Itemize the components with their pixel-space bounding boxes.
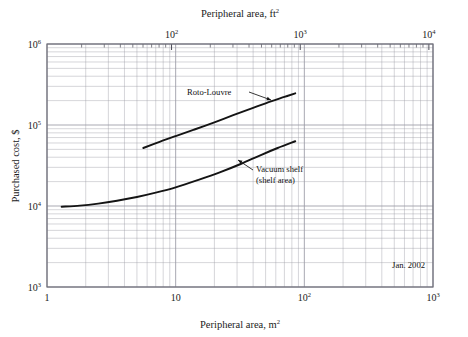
x-tick-0: 1 [45, 292, 50, 303]
date-stamp: Jan. 2002 [392, 260, 425, 270]
top-axis-title-text: Peripheral area, ft [201, 8, 276, 19]
y-axis-title: Purchased cost, $ [10, 129, 21, 202]
top-axis-title: Peripheral area, ft2 [201, 7, 279, 19]
vacuum-shelf-label-line2: (shelf area) [256, 175, 295, 185]
x-tick-1: 10 [171, 292, 181, 303]
x-axis-title-text: Peripheral area, m [200, 319, 277, 330]
figure-container: Peripheral area, ft2 103104105106 110102… [0, 0, 468, 337]
roto-louvre-label: Roto-Louvre [187, 87, 232, 97]
top-axis-title-exponent: 2 [276, 7, 279, 14]
x-axis-title: Peripheral area, m2 [200, 318, 280, 330]
vacuum-shelf-label-line1: Vacuum shelf [256, 164, 303, 174]
log-log-chart: Peripheral area, ft2 103104105106 110102… [0, 0, 468, 337]
x-axis-title-exponent: 2 [277, 318, 280, 325]
